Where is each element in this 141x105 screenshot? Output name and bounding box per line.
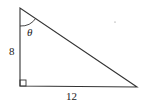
angle-arc-theta xyxy=(20,18,36,26)
leg-label-vertical: 8 xyxy=(9,45,15,57)
stray-dot xyxy=(114,21,115,22)
right-angle-marker xyxy=(20,80,26,86)
triangle-diagram: θ 8 12 xyxy=(0,0,141,105)
angle-label-theta: θ xyxy=(27,26,33,38)
leg-label-horizontal: 12 xyxy=(66,90,77,102)
right-triangle xyxy=(20,8,137,87)
